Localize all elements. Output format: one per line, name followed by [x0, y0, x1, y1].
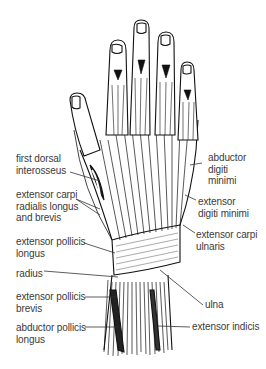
- label-first-dorsal-interosseus: first dorsal interosseus: [16, 153, 66, 176]
- label-extensor-digiti-minimi: extensor digiti minimi: [198, 196, 249, 219]
- label-abductor-pollicis-longus: abductor pollicis longus: [16, 322, 86, 345]
- label-radius: radius: [16, 268, 43, 280]
- label-extensor-carpi-radialis: extensor carpi radialis longus and brevi…: [16, 189, 78, 224]
- label-extensor-pollicis-longus: extensor pollicis longus: [16, 236, 85, 259]
- label-extensor-indicis: extensor indicis: [192, 321, 259, 333]
- label-ulna: ulna: [205, 299, 224, 311]
- label-extensor-carpi-ulnaris: extensor carpi ulnaris: [196, 229, 257, 252]
- extensor-retinaculum: [112, 225, 180, 275]
- label-abductor-digiti-minimi: abductor digiti minimi: [208, 152, 246, 187]
- label-extensor-pollicis-brevis: extensor pollicis brevis: [16, 291, 85, 314]
- anatomy-figure: first dorsal interosseus extensor carpi …: [0, 0, 266, 369]
- fingers: [70, 20, 198, 156]
- forearm: [104, 275, 172, 356]
